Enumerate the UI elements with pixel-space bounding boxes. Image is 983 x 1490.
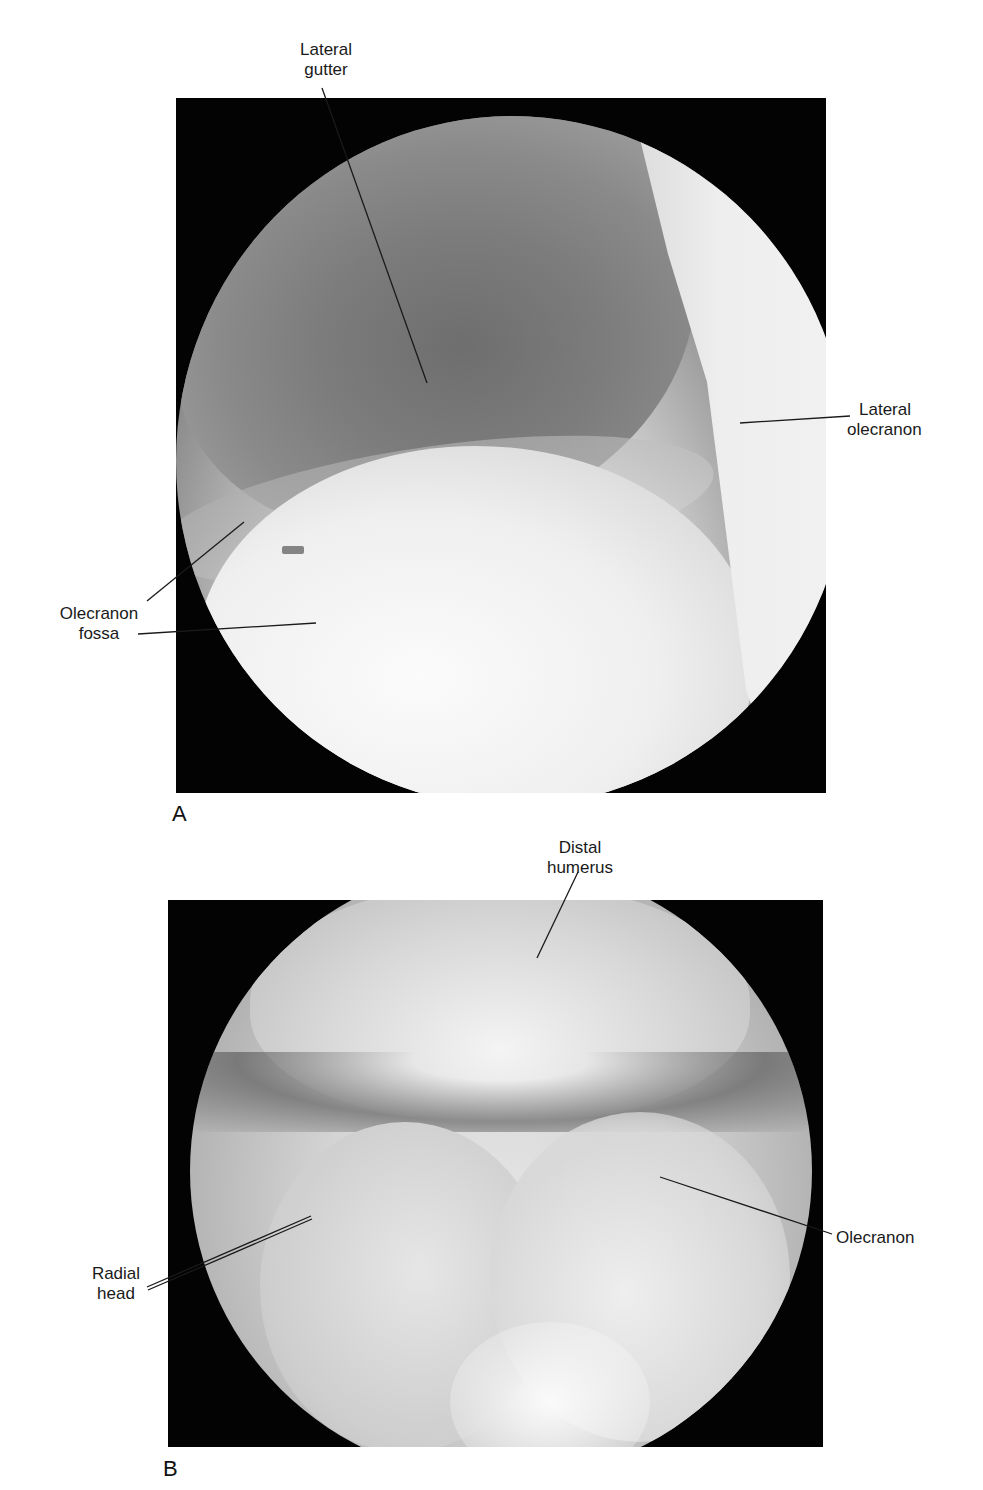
panel-b-image [168,900,823,1447]
label-line: humerus [520,858,640,878]
label-distal-humerus: Distal humerus [520,838,640,878]
arthroscopic-view-b [190,900,812,1447]
label-line: Lateral [276,40,376,60]
label-line: Distal [520,838,640,858]
label-radial-head: Radial head [66,1264,166,1304]
panel-letter-a: A [172,802,187,826]
dark-spot [282,546,304,554]
label-line: olecranon [847,420,967,440]
label-olecranon-fossa: Olecranon fossa [44,604,154,644]
label-line: Radial [66,1264,166,1284]
label-line: Lateral [847,400,967,420]
panel-letter-b: B [163,1457,178,1481]
label-line: gutter [276,60,376,80]
label-line: Olecranon [44,604,154,624]
label-lateral-olecranon: Lateral olecranon [847,400,967,440]
label-line: head [66,1284,166,1304]
label-line: Olecranon [836,1228,956,1248]
joint-crease [190,1052,812,1132]
label-lateral-gutter: Lateral gutter [276,40,376,80]
panel-a-image [176,98,826,793]
label-line: fossa [44,624,154,644]
arthroscopic-view-a [176,116,826,793]
label-olecranon: Olecranon [836,1228,956,1248]
